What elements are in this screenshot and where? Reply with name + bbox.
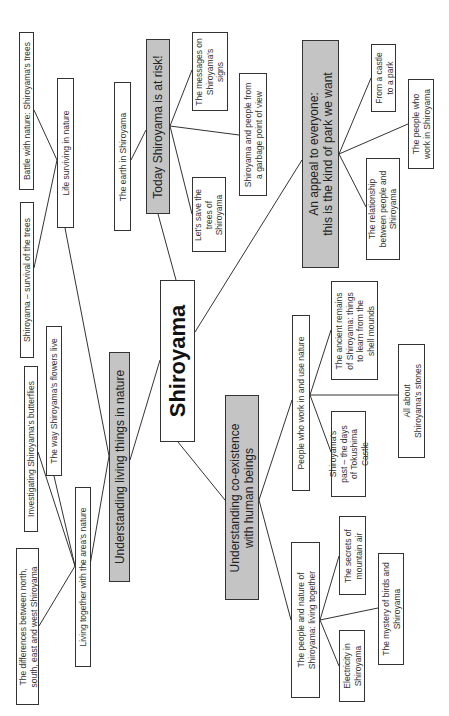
leaf-label: From a castle to a park xyxy=(373,52,394,104)
leaf-relationship: The relationship between people and Shir… xyxy=(366,158,400,260)
branch-today-at-risk: Today Shiroyama is at risk! xyxy=(146,39,170,214)
branch-appeal-to-everyone: An appeal to everyone: this is the kind … xyxy=(302,40,339,268)
branch-label: Understanding co-existence with human be… xyxy=(228,423,256,572)
node-people-nature-living-together: The people and nature of Shiroyama: livi… xyxy=(291,542,320,698)
leaf-stones: All about Shiroyama's stones xyxy=(398,344,425,458)
leaf-electricity: Electricity in Shiroyama xyxy=(339,630,365,702)
leaf-survival-of-trees: Shiroyama – survival of the trees xyxy=(20,202,34,358)
leaf-label: The ancient remains of Shiroyama: things… xyxy=(334,292,376,369)
leaf-label: Let's save the trees of Shiroyama xyxy=(193,188,225,240)
leaf-birds: The mystery of birds and Shiroyama xyxy=(378,553,404,665)
leaf-earth: The earth in Shiroyama xyxy=(114,82,131,231)
branch-label: Understanding living things in nature xyxy=(113,370,127,564)
leaf-label: Electricity in Shiroyama xyxy=(342,643,363,688)
leaf-battle-with-nature: Battle with nature: Shiroyama's trees xyxy=(19,32,34,190)
leaf-label: Shiroyama's past – the days of Tokushima… xyxy=(328,425,370,483)
root-label: Shiroyama xyxy=(166,305,190,418)
leaf-label: The mystery of birds and Shiroyama xyxy=(381,562,402,656)
leaf-label: Battle with nature: Shiroyama's trees xyxy=(21,42,32,180)
leaf-people-who-work: The people who work in Shiroyama xyxy=(408,79,434,169)
node-label: Living together with the area's nature xyxy=(78,507,89,646)
leaf-label: All about Shiroyama's stones xyxy=(401,364,422,438)
leaf-mountain-air: The secrets of mountain air xyxy=(339,516,366,595)
leaf-label: The relationship between people and Shir… xyxy=(367,171,399,248)
node-people-work-use-nature: People who work in and use nature xyxy=(292,315,310,491)
leaf-label: The earth in Shiroyama xyxy=(117,112,128,200)
leaf-messages-signs: The messages on Shiroyama's signs xyxy=(192,32,228,111)
leaf-ancient-remains: The ancient remains of Shiroyama: things… xyxy=(331,281,378,380)
branch-label: An appeal to everyone: this is the kind … xyxy=(307,72,335,235)
leaf-save-trees: Let's save the trees of Shiroyama xyxy=(192,177,226,252)
leaf-castle-to-park: From a castle to a park xyxy=(371,44,396,112)
leaf-flowers-live: The way Shiroyama's flowers live xyxy=(46,326,62,476)
leaf-label: Shiroyama and people from a garbage poin… xyxy=(243,82,264,186)
node-label: Life surviving in nature xyxy=(60,110,71,195)
leaf-label: The people who work in Shiroyama xyxy=(411,89,432,159)
leaf-label: The secrets of mountain air xyxy=(342,529,363,583)
leaf-label: Shiroyama – survival of the trees xyxy=(22,218,33,342)
mind-map-canvas: Shiroyama Understanding living things in… xyxy=(0,0,449,716)
root-node-shiroyama: Shiroyama xyxy=(160,280,195,442)
leaf-label: The messages on Shiroyama's signs xyxy=(194,38,226,106)
node-label: The people and nature of Shiroyama: livi… xyxy=(295,571,316,669)
leaf-label: Investigating Shiroyama's butterflies xyxy=(26,381,37,517)
leaf-differences-nsew: The differences between north, south, ea… xyxy=(16,548,39,705)
node-living-together-area: Living together with the area's nature xyxy=(75,487,91,667)
branch-label: Today Shiroyama is at risk! xyxy=(151,55,165,198)
leaf-garbage-view: Shiroyama and people from a garbage poin… xyxy=(239,73,267,196)
branch-coexistence: Understanding co-existence with human be… xyxy=(225,395,259,600)
leaf-tokushima-castle: Shiroyama's past – the days of Tokushima… xyxy=(331,411,366,497)
node-life-surviving: Life surviving in nature xyxy=(57,78,74,228)
branch-understanding-living-things: Understanding living things in nature xyxy=(109,352,130,582)
leaf-butterflies: Investigating Shiroyama's butterflies xyxy=(24,366,38,532)
node-label: People who work in and use nature xyxy=(296,337,307,470)
leaf-label: The way Shiroyama's flowers live xyxy=(49,338,60,463)
leaf-label: The differences between north, south, ea… xyxy=(17,566,38,687)
